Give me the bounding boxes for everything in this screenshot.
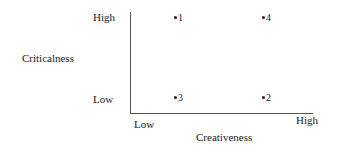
point-marker-icon [262, 16, 265, 19]
data-point-1: 1 [174, 12, 183, 23]
y-axis-line [130, 12, 131, 114]
data-point-4: 4 [262, 12, 271, 23]
y-axis-high-label: High [93, 11, 115, 23]
data-point-3: 3 [174, 92, 183, 103]
y-axis-title: Criticalness [22, 52, 74, 64]
x-axis-line [130, 113, 313, 114]
x-axis-title: Creativeness [196, 131, 252, 143]
point-marker-icon [262, 96, 265, 99]
point-label: 4 [266, 12, 271, 23]
point-label: 1 [178, 12, 183, 23]
x-axis-low-label: Low [134, 118, 154, 130]
point-marker-icon [174, 16, 177, 19]
data-point-2: 2 [262, 92, 271, 103]
point-label: 3 [178, 92, 183, 103]
point-marker-icon [174, 96, 177, 99]
y-axis-low-label: Low [93, 93, 113, 105]
x-axis-high-label: High [296, 114, 318, 126]
point-label: 2 [266, 92, 271, 103]
